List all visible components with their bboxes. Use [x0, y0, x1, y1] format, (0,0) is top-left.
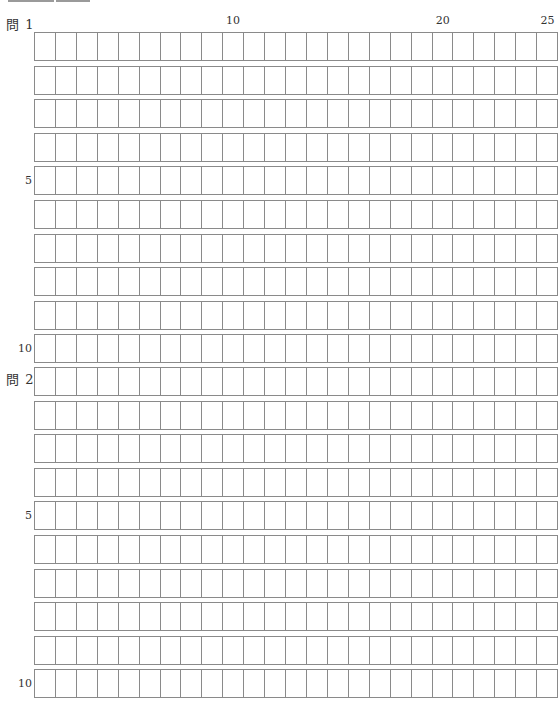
answer-cell[interactable]: [494, 469, 515, 496]
answer-cell[interactable]: [306, 33, 327, 60]
answer-cell[interactable]: [515, 536, 536, 563]
answer-cell[interactable]: [118, 134, 139, 161]
answer-cell[interactable]: [452, 435, 473, 462]
answer-cell[interactable]: [180, 603, 201, 630]
answer-cell[interactable]: [264, 469, 285, 496]
answer-cell[interactable]: [327, 402, 348, 429]
answer-cell[interactable]: [348, 100, 369, 127]
answer-cell[interactable]: [201, 469, 222, 496]
answer-cell[interactable]: [97, 502, 118, 529]
answer-cell[interactable]: [222, 235, 243, 262]
answer-cell[interactable]: [118, 469, 139, 496]
answer-cell[interactable]: [180, 134, 201, 161]
answer-cell[interactable]: [34, 201, 55, 228]
answer-cell[interactable]: [494, 670, 515, 697]
answer-cell[interactable]: [390, 536, 411, 563]
answer-cell[interactable]: [473, 335, 494, 362]
answer-cell[interactable]: [432, 201, 453, 228]
answer-cell[interactable]: [348, 335, 369, 362]
answer-cell[interactable]: [222, 469, 243, 496]
answer-cell[interactable]: [97, 33, 118, 60]
answer-cell[interactable]: [97, 603, 118, 630]
answer-cell[interactable]: [55, 33, 76, 60]
answer-cell[interactable]: [390, 570, 411, 597]
answer-cell[interactable]: [452, 536, 473, 563]
answer-cell[interactable]: [243, 536, 264, 563]
answer-cell[interactable]: [473, 268, 494, 295]
answer-cell[interactable]: [118, 435, 139, 462]
answer-cell[interactable]: [160, 201, 181, 228]
answer-cell[interactable]: [97, 402, 118, 429]
answer-cell[interactable]: [285, 335, 306, 362]
answer-cell[interactable]: [348, 502, 369, 529]
answer-cell[interactable]: [118, 100, 139, 127]
answer-cell[interactable]: [327, 368, 348, 395]
answer-cell[interactable]: [494, 637, 515, 664]
answer-cell[interactable]: [97, 637, 118, 664]
answer-cell[interactable]: [285, 67, 306, 94]
answer-cell[interactable]: [452, 335, 473, 362]
answer-cell[interactable]: [139, 402, 160, 429]
answer-cell[interactable]: [369, 33, 390, 60]
answer-cell[interactable]: [306, 100, 327, 127]
answer-cell[interactable]: [139, 637, 160, 664]
answer-cell[interactable]: [494, 402, 515, 429]
answer-cell[interactable]: [76, 235, 97, 262]
answer-cell[interactable]: [139, 670, 160, 697]
answer-cell[interactable]: [390, 670, 411, 697]
answer-cell[interactable]: [118, 335, 139, 362]
answer-cell[interactable]: [118, 536, 139, 563]
answer-cell[interactable]: [264, 603, 285, 630]
answer-cell[interactable]: [369, 637, 390, 664]
answer-cell[interactable]: [139, 570, 160, 597]
answer-cell[interactable]: [222, 167, 243, 194]
answer-cell[interactable]: [473, 469, 494, 496]
answer-cell[interactable]: [139, 469, 160, 496]
answer-cell[interactable]: [348, 302, 369, 329]
answer-cell[interactable]: [432, 603, 453, 630]
answer-cell[interactable]: [180, 637, 201, 664]
answer-cell[interactable]: [285, 435, 306, 462]
answer-cell[interactable]: [369, 235, 390, 262]
answer-cell[interactable]: [411, 536, 432, 563]
answer-cell[interactable]: [411, 603, 432, 630]
answer-cell[interactable]: [180, 201, 201, 228]
answer-cell[interactable]: [536, 402, 558, 429]
answer-cell[interactable]: [432, 67, 453, 94]
answer-cell[interactable]: [55, 570, 76, 597]
answer-cell[interactable]: [118, 167, 139, 194]
answer-cell[interactable]: [76, 201, 97, 228]
answer-cell[interactable]: [160, 637, 181, 664]
answer-cell[interactable]: [515, 670, 536, 697]
answer-cell[interactable]: [369, 268, 390, 295]
answer-cell[interactable]: [390, 67, 411, 94]
answer-cell[interactable]: [222, 402, 243, 429]
answer-cell[interactable]: [390, 33, 411, 60]
answer-cell[interactable]: [348, 670, 369, 697]
answer-cell[interactable]: [285, 100, 306, 127]
answer-cell[interactable]: [139, 302, 160, 329]
answer-cell[interactable]: [139, 201, 160, 228]
answer-cell[interactable]: [139, 33, 160, 60]
answer-cell[interactable]: [76, 402, 97, 429]
answer-cell[interactable]: [411, 670, 432, 697]
answer-cell[interactable]: [432, 670, 453, 697]
answer-cell[interactable]: [327, 502, 348, 529]
answer-cell[interactable]: [160, 302, 181, 329]
answer-cell[interactable]: [285, 268, 306, 295]
answer-cell[interactable]: [473, 502, 494, 529]
answer-cell[interactable]: [473, 134, 494, 161]
answer-cell[interactable]: [494, 167, 515, 194]
answer-cell[interactable]: [139, 368, 160, 395]
answer-cell[interactable]: [432, 100, 453, 127]
answer-cell[interactable]: [473, 435, 494, 462]
answer-cell[interactable]: [348, 235, 369, 262]
answer-cell[interactable]: [327, 100, 348, 127]
answer-cell[interactable]: [34, 502, 55, 529]
answer-cell[interactable]: [411, 167, 432, 194]
answer-cell[interactable]: [264, 368, 285, 395]
answer-cell[interactable]: [264, 570, 285, 597]
answer-cell[interactable]: [243, 201, 264, 228]
answer-cell[interactable]: [494, 302, 515, 329]
answer-cell[interactable]: [285, 302, 306, 329]
